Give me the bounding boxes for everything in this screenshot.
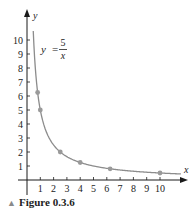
- data-point: [58, 150, 63, 155]
- x-tick-label: 6: [104, 183, 109, 194]
- x-tick-label: 2: [51, 183, 56, 194]
- x-tick-label: 5: [91, 183, 96, 194]
- svg-text:y: y: [40, 43, 46, 55]
- x-axis-label: x: [183, 164, 189, 175]
- y-tick-label: 1: [18, 161, 23, 172]
- y-tick-label: 9: [18, 49, 23, 60]
- y-tick-label: 6: [18, 91, 23, 102]
- x-tick-label: 9: [144, 183, 149, 194]
- x-tick-label: 7: [118, 183, 123, 194]
- y-axis-arrow-icon: [24, 9, 30, 17]
- y-tick-label: 4: [18, 119, 23, 130]
- y-axis-label: y: [32, 10, 38, 21]
- chart: 1234567891012345678910 yx y =5x: [0, 0, 196, 196]
- axis-labels: yx: [32, 10, 189, 175]
- x-tick-label: 3: [64, 183, 69, 194]
- y-tick-label: 2: [18, 147, 23, 158]
- svg-text:=: =: [52, 43, 58, 55]
- y-tick-label: 3: [18, 133, 23, 144]
- x-tick-label: 4: [78, 183, 83, 194]
- y-tick-label: 5: [18, 105, 23, 116]
- svg-text:x: x: [60, 50, 66, 61]
- x-tick-label: 10: [155, 183, 165, 194]
- equation-label: y =5x: [40, 37, 67, 61]
- figure-caption: ▲Figure 0.3.6: [7, 196, 75, 208]
- x-tick-label: 1: [38, 183, 43, 194]
- x-tick-label: 8: [131, 183, 136, 194]
- svg-text:5: 5: [61, 37, 66, 48]
- data-point: [38, 108, 43, 113]
- data-point: [158, 171, 163, 176]
- y-tick-label: 7: [18, 77, 23, 88]
- y-tick-label: 8: [18, 63, 23, 74]
- data-points: [35, 90, 162, 175]
- axis-ticks: 1234567891012345678910: [13, 35, 165, 195]
- data-point: [108, 166, 113, 171]
- caption-text: Figure 0.3.6: [19, 196, 75, 208]
- x-axis-arrow-icon: [180, 177, 188, 183]
- data-point: [78, 160, 83, 165]
- triangle-icon: ▲: [7, 198, 16, 208]
- y-tick-label: 10: [13, 35, 23, 46]
- data-point: [35, 90, 40, 95]
